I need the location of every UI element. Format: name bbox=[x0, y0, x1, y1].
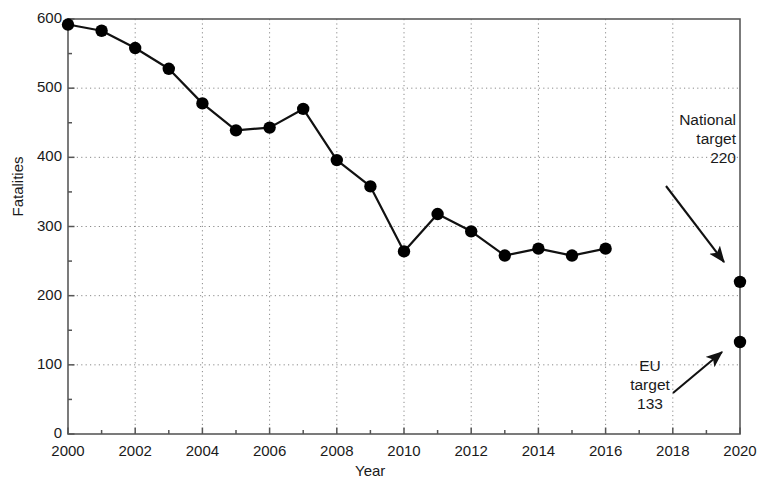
x-tick-label: 2014 bbox=[508, 442, 568, 459]
eu-target-annotation: EU target 133 bbox=[596, 356, 704, 413]
y-tick-label: 100 bbox=[16, 355, 62, 372]
national-target-annotation: National target 220 bbox=[679, 110, 736, 167]
x-tick-label: 2016 bbox=[576, 442, 636, 459]
x-tick-label: 2012 bbox=[441, 442, 501, 459]
y-tick-label: 400 bbox=[16, 147, 62, 164]
eu-target-line-1: EU bbox=[596, 356, 704, 375]
y-tick-label: 0 bbox=[16, 424, 62, 441]
y-tick-label: 500 bbox=[16, 78, 62, 95]
national-target-line-3: 220 bbox=[679, 148, 736, 167]
x-tick-label: 2000 bbox=[38, 442, 98, 459]
x-tick-label: 2006 bbox=[240, 442, 300, 459]
y-tick-label: 600 bbox=[16, 9, 62, 26]
x-tick-label: 2008 bbox=[307, 442, 367, 459]
x-tick-label: 2002 bbox=[105, 442, 165, 459]
x-axis-label: Year bbox=[355, 462, 385, 479]
x-tick-label: 2004 bbox=[172, 442, 232, 459]
chart-figure: Fatalities Year 0100200300400500600 2000… bbox=[0, 0, 758, 485]
x-tick-label: 2020 bbox=[710, 442, 758, 459]
national-target-line-1: National bbox=[679, 110, 736, 129]
national-target-line-2: target bbox=[679, 129, 736, 148]
x-tick-label: 2018 bbox=[643, 442, 703, 459]
eu-target-line-3: 133 bbox=[596, 394, 704, 413]
y-tick-label: 300 bbox=[16, 217, 62, 234]
x-tick-label: 2010 bbox=[374, 442, 434, 459]
eu-target-line-2: target bbox=[596, 375, 704, 394]
y-tick-label: 200 bbox=[16, 286, 62, 303]
